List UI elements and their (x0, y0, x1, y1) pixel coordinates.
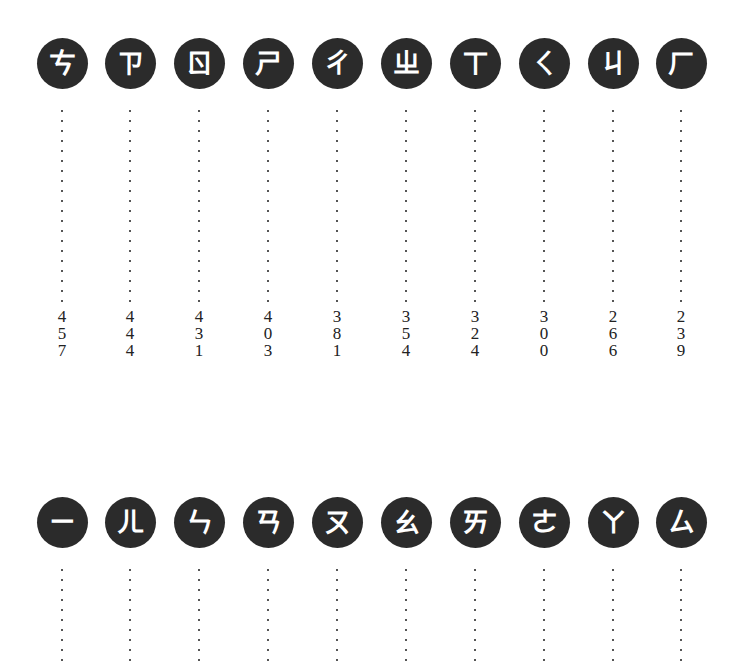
bopomofo-badge: ㄔ (312, 38, 363, 89)
value-digits: 4 0 3 (264, 308, 273, 359)
bopomofo-badge: ㄑ (519, 38, 570, 89)
dotted-leader (336, 106, 338, 306)
dotted-leader (680, 106, 682, 306)
digit: 4 (58, 308, 67, 325)
column-item: ㄗ 4 4 4 (100, 38, 160, 359)
dotted-leader (680, 565, 682, 665)
column-item: ㄧ (32, 497, 92, 665)
digit: 1 (333, 342, 342, 359)
column-item: ㄒ 3 2 4 (445, 38, 505, 359)
digit: 6 (609, 342, 618, 359)
dotted-leader (612, 565, 614, 665)
column-item: ㄐ 2 6 6 (583, 38, 643, 359)
bopomofo-badge: ㄓ (381, 38, 432, 89)
bopomofo-badge: ㄢ (243, 497, 294, 548)
value-digits: 4 5 7 (58, 308, 67, 359)
bopomofo-badge: ㄐ (588, 38, 639, 89)
dotted-leader (405, 106, 407, 306)
bopomofo-badge: ㄘ (37, 38, 88, 89)
column-item: ㄖ 4 3 1 (169, 38, 229, 359)
dotted-leader (129, 106, 131, 306)
column-item: ㄚ (583, 497, 643, 665)
column-item: ㄙ (651, 497, 711, 665)
digit: 0 (540, 325, 549, 342)
digit: 3 (333, 308, 342, 325)
value-digits: 4 4 4 (126, 308, 135, 359)
value-digits: 4 3 1 (195, 308, 204, 359)
digit: 3 (471, 308, 480, 325)
digit: 2 (677, 308, 686, 325)
digit: 6 (609, 325, 618, 342)
bopomofo-badge: ㄠ (381, 497, 432, 548)
dotted-leader (474, 106, 476, 306)
dotted-leader (267, 565, 269, 665)
digit: 4 (402, 342, 411, 359)
digit: 7 (58, 342, 67, 359)
column-item: ㄦ (100, 497, 160, 665)
bopomofo-badge: ㄣ (174, 497, 225, 548)
digit: 2 (609, 308, 618, 325)
value-digits: 3 5 4 (402, 308, 411, 359)
bopomofo-badge: ㄒ (450, 38, 501, 89)
digit: 3 (195, 325, 204, 342)
dotted-leader (612, 106, 614, 306)
digit: 3 (677, 325, 686, 342)
dotted-leader (198, 565, 200, 665)
column-item: ㄘ 4 5 7 (32, 38, 92, 359)
dotted-leader (267, 106, 269, 306)
dotted-leader (336, 565, 338, 665)
bopomofo-badge: ㄗ (105, 38, 156, 89)
digit: 4 (126, 342, 135, 359)
bopomofo-badge: ㄖ (174, 38, 225, 89)
digit: 4 (126, 308, 135, 325)
column-item: ㄢ (238, 497, 298, 665)
digit: 4 (195, 308, 204, 325)
value-digits: 3 0 0 (540, 308, 549, 359)
column-item: ㄕ 4 0 3 (238, 38, 298, 359)
digit: 2 (471, 325, 480, 342)
digit: 3 (540, 308, 549, 325)
dotted-leader (198, 106, 200, 306)
value-digits: 2 3 9 (677, 308, 686, 359)
digit: 4 (471, 342, 480, 359)
column-item: ㄏ 2 3 9 (651, 38, 711, 359)
dotted-leader (61, 565, 63, 665)
column-item: ㄡ (307, 497, 367, 665)
digit: 4 (264, 308, 273, 325)
digit: 5 (402, 325, 411, 342)
value-digits: 3 8 1 (333, 308, 342, 359)
bopomofo-badge: ㄡ (312, 497, 363, 548)
bopomofo-badge: ㄞ (450, 497, 501, 548)
bopomofo-badge: ㄦ (105, 497, 156, 548)
dotted-leader (129, 565, 131, 665)
bopomofo-badge: ㄕ (243, 38, 294, 89)
dotted-leader (405, 565, 407, 665)
digit: 0 (540, 342, 549, 359)
dotted-leader (543, 565, 545, 665)
column-item: ㄞ (445, 497, 505, 665)
digit: 9 (677, 342, 686, 359)
dotted-leader (61, 106, 63, 306)
digit: 1 (195, 342, 204, 359)
column-item: ㄔ 3 8 1 (307, 38, 367, 359)
digit: 8 (333, 325, 342, 342)
value-digits: 2 6 6 (609, 308, 618, 359)
column-item: ㄜ (514, 497, 574, 665)
column-item: ㄣ (169, 497, 229, 665)
digit: 3 (264, 342, 273, 359)
digit: 4 (126, 325, 135, 342)
column-item: ㄑ 3 0 0 (514, 38, 574, 359)
bopomofo-badge: ㄜ (519, 497, 570, 548)
value-digits: 3 2 4 (471, 308, 480, 359)
column-item: ㄓ 3 5 4 (376, 38, 436, 359)
bopomofo-badge: ㄙ (656, 497, 707, 548)
column-item: ㄠ (376, 497, 436, 665)
bopomofo-badge: ㄚ (588, 497, 639, 548)
digit: 3 (402, 308, 411, 325)
digit: 5 (58, 325, 67, 342)
dotted-leader (543, 106, 545, 306)
digit: 0 (264, 325, 273, 342)
bopomofo-badge: ㄧ (37, 497, 88, 548)
bopomofo-badge: ㄏ (656, 38, 707, 89)
dotted-leader (474, 565, 476, 665)
